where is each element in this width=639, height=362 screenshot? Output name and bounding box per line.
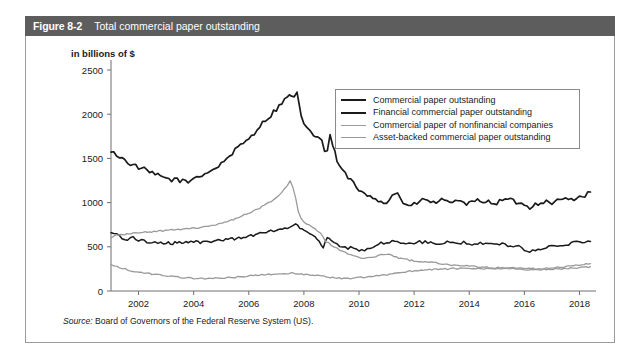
figure-container: Figure 8-2 Total commercial paper outsta… — [25, 16, 615, 343]
x-axis-tick-label: 2018 — [569, 298, 590, 309]
legend-item: Financial commercial paper outstanding — [341, 107, 573, 120]
chart-plot-area: 0500100015002000250020022004200620082010… — [26, 36, 616, 343]
x-axis-tick-label: 2016 — [514, 298, 535, 309]
figure-caption-title: Total commercial paper outstanding — [94, 20, 260, 32]
x-axis-tick-label: 2012 — [404, 298, 425, 309]
figure-body-panel: in billions of $ 05001000150020002500200… — [25, 36, 615, 343]
source-prefix: Source: — [63, 316, 93, 326]
legend-swatch-line-icon — [341, 125, 366, 126]
chart-legend: Commercial paper outstandingFinancial co… — [335, 89, 580, 149]
x-axis-tick-label: 2002 — [128, 298, 149, 309]
y-axis-tick-label: 1500 — [82, 153, 103, 164]
series-line-2 — [111, 264, 590, 280]
legend-item-label: Asset-backed commercial paper outstandin… — [373, 132, 551, 143]
legend-item-label: Commercial paper outstanding — [373, 95, 496, 106]
legend-item-label: Financial commercial paper outstanding — [373, 107, 532, 118]
figure-number-label: Figure 8-2 — [33, 20, 82, 32]
x-axis-tick-label: 2006 — [238, 298, 259, 309]
legend-item: Commercial paper outstanding — [341, 94, 573, 107]
legend-item-label: Commercial paper of nonfinancial compani… — [373, 120, 553, 131]
legend-swatch-line-icon — [341, 99, 366, 101]
y-axis-tick-label: 1000 — [82, 197, 103, 208]
y-axis-tick-label: 2000 — [82, 109, 103, 120]
x-axis-tick-label: 2014 — [459, 298, 480, 309]
y-axis-tick-label: 0 — [98, 286, 103, 297]
source-text: Board of Governors of the Federal Reserv… — [95, 316, 313, 326]
series-line-3 — [111, 181, 590, 270]
legend-swatch-line-icon — [341, 112, 366, 114]
source-note: Source: Board of Governors of the Federa… — [63, 316, 313, 326]
x-axis-tick-label: 2004 — [183, 298, 204, 309]
figure-header-bar: Figure 8-2 Total commercial paper outsta… — [25, 16, 615, 36]
series-line-1 — [111, 224, 590, 252]
legend-item: Commercial paper of nonfinancial compani… — [341, 119, 573, 132]
legend-item: Asset-backed commercial paper outstandin… — [341, 132, 573, 145]
x-axis-tick-label: 2010 — [348, 298, 369, 309]
y-axis-tick-label: 2500 — [82, 65, 103, 76]
legend-swatch-line-icon — [341, 137, 366, 138]
x-axis-tick-label: 2008 — [293, 298, 314, 309]
y-axis-tick-label: 500 — [87, 241, 103, 252]
